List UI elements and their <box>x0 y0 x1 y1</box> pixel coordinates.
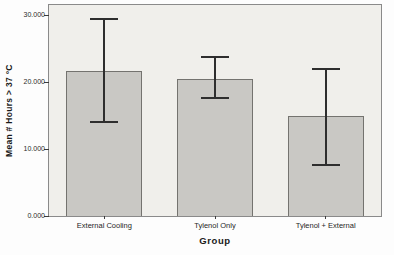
x-category-label: Tylenol + External <box>266 221 386 230</box>
error-bar-cap-top <box>201 56 229 58</box>
error-bar-stem <box>103 19 105 122</box>
y-tick-label: 20.000 <box>3 78 45 86</box>
error-bar-stem <box>214 57 216 98</box>
x-tick-mark <box>325 216 326 219</box>
error-bar-cap-top <box>312 68 340 70</box>
bar-chart-figure: Mean # Hours > 37 °C 0.00010.00020.00030… <box>0 0 394 255</box>
y-tick-label: 0.000 <box>3 212 45 220</box>
error-bar-cap-top <box>90 18 118 20</box>
x-axis-title: Group <box>48 235 382 246</box>
x-category-label: External Cooling <box>44 221 164 230</box>
error-bar-stem <box>325 69 327 165</box>
y-tick-label: 10.000 <box>3 145 45 153</box>
x-category-label: Tylenol Only <box>155 221 275 230</box>
y-tick-label: 30.000 <box>3 11 45 19</box>
plot-area: 0.00010.00020.00030.000External CoolingT… <box>48 4 382 217</box>
error-bar-cap-bottom <box>312 164 340 166</box>
x-tick-mark <box>104 216 105 219</box>
error-bar-cap-bottom <box>201 97 229 99</box>
bar <box>177 79 253 216</box>
y-axis-title: Mean # Hours > 37 °C <box>1 4 16 217</box>
x-tick-mark <box>215 216 216 219</box>
error-bar-cap-bottom <box>90 121 118 123</box>
